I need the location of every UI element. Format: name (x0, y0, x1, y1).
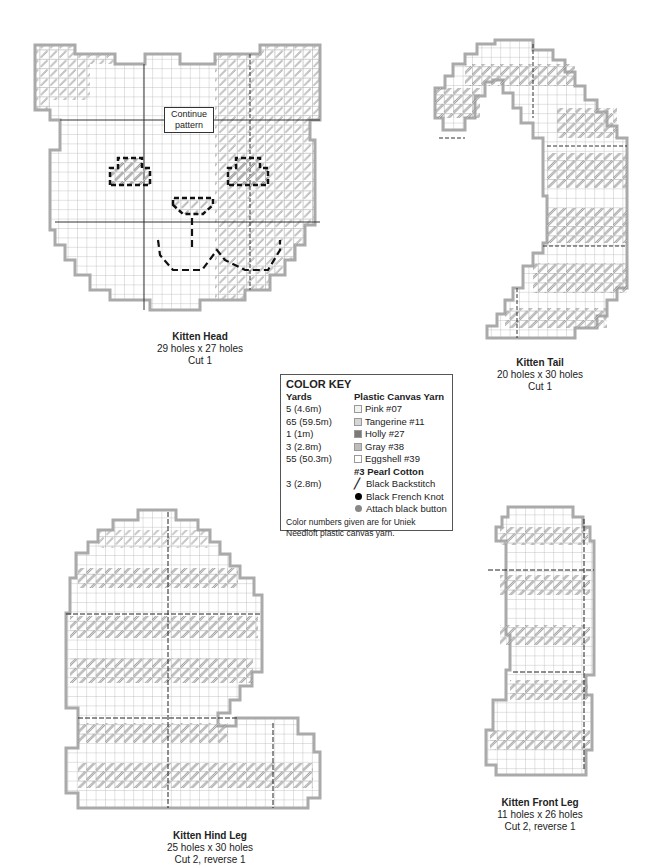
backstitch-icon: ╱ (354, 478, 363, 491)
caption-size: 29 holes x 27 holes (140, 343, 260, 355)
yards-header: Yards (286, 391, 354, 404)
kitten-head-caption: Kitten Head 29 holes x 27 holes Cut 1 (140, 331, 260, 367)
callout-line-1: Continue (165, 109, 213, 120)
key-row-holly: 1 (1m)Holly #27 (286, 428, 447, 441)
caption-size: 20 holes x 30 holes (480, 369, 600, 381)
kitten-tail-caption: Kitten Tail 20 holes x 30 holes Cut 1 (480, 357, 600, 393)
caption-size: 11 holes x 26 holes (475, 809, 605, 821)
swatch-icon (354, 443, 362, 451)
caption-title: Kitten Hind Leg (140, 830, 280, 842)
button-icon (355, 505, 362, 512)
kitten-front-leg-caption: Kitten Front Leg 11 holes x 26 holes Cut… (475, 797, 605, 833)
kitten-hind-leg-chart (58, 508, 338, 813)
kitten-front-leg-chart (478, 505, 608, 780)
key-row-tangerine: 65 (59.5m)Tangerine #11 (286, 416, 447, 429)
swatch-icon (354, 405, 362, 413)
swatch-icon (354, 430, 362, 438)
key-row-eggshell: 55 (50.3m)Eggshell #39 (286, 453, 447, 466)
key-row-french-knot: Black French Knot (286, 491, 447, 504)
caption-cut: Cut 2, reverse 1 (475, 821, 605, 833)
key-row-backstitch: 3 (2.8m)╱Black Backstitch (286, 478, 447, 491)
caption-cut: Cut 1 (140, 355, 260, 367)
french-knot-icon (355, 493, 362, 500)
caption-size: 25 holes x 30 holes (140, 842, 280, 854)
yarn-header: Plastic Canvas Yarn (354, 391, 444, 404)
swatch-icon (354, 455, 362, 463)
key-row-pink: 5 (4.6m)Pink #07 (286, 403, 447, 416)
caption-title: Kitten Head (140, 331, 260, 343)
callout-line-2: pattern (165, 120, 213, 131)
caption-cut: Cut 1 (480, 381, 600, 393)
pearl-cotton-header: #3 Pearl Cotton (354, 466, 424, 479)
kitten-tail-chart (425, 38, 635, 348)
swatch-icon (354, 418, 362, 426)
key-row-gray: 3 (2.8m)Gray #38 (286, 441, 447, 454)
kitten-hind-leg-caption: Kitten Hind Leg 25 holes x 30 holes Cut … (140, 830, 280, 865)
caption-cut: Cut 2, reverse 1 (140, 854, 280, 865)
continue-pattern-callout: Continue pattern (164, 107, 214, 133)
caption-title: Kitten Front Leg (475, 797, 605, 809)
caption-title: Kitten Tail (480, 357, 600, 369)
kitten-head-chart (30, 40, 330, 320)
color-key-title: COLOR KEY (286, 378, 447, 391)
